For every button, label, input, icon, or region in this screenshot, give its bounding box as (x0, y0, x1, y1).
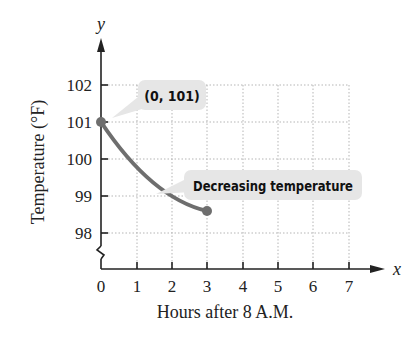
temperature-chart: y x 102 101 100 99 98 0 1 2 3 4 5 6 7 Ho… (0, 0, 417, 344)
x-tick-label: 2 (168, 277, 177, 296)
y-tick-label: 98 (75, 224, 92, 243)
y-tick-label: 100 (67, 150, 93, 169)
y-tick-label: 101 (67, 113, 93, 132)
x-tick-label: 7 (345, 277, 354, 296)
end-point (202, 206, 212, 216)
x-tick-labels: 0 1 2 3 4 5 6 7 (97, 277, 354, 296)
y-axis (97, 50, 108, 269)
x-tick-label: 1 (133, 277, 142, 296)
x-axis-name: x (392, 259, 401, 279)
x-tick-label: 6 (309, 277, 318, 296)
y-tick-labels: 102 101 100 99 98 (67, 76, 93, 243)
start-point (96, 117, 106, 127)
y-axis-label: Temperature (°F) (28, 100, 49, 224)
callout-start-text: (0, 101) (144, 88, 200, 104)
x-axis-label: Hours after 8 A.M. (157, 302, 293, 322)
callout-start-point: (0, 101) (112, 80, 206, 118)
y-tick-label: 99 (75, 187, 92, 206)
callout-curve-label: Decreasing temperature (156, 170, 362, 200)
x-tick-label: 3 (203, 277, 212, 296)
x-tick-label: 4 (239, 277, 248, 296)
y-axis-arrow-icon (97, 38, 105, 52)
x-tick-label: 0 (97, 277, 106, 296)
callout-curve-text: Decreasing temperature (193, 178, 353, 194)
x-axis (101, 262, 372, 269)
y-tick-label: 102 (67, 76, 93, 95)
y-axis-name: y (95, 14, 105, 34)
x-axis-arrow-icon (370, 265, 385, 273)
x-tick-label: 5 (274, 277, 283, 296)
